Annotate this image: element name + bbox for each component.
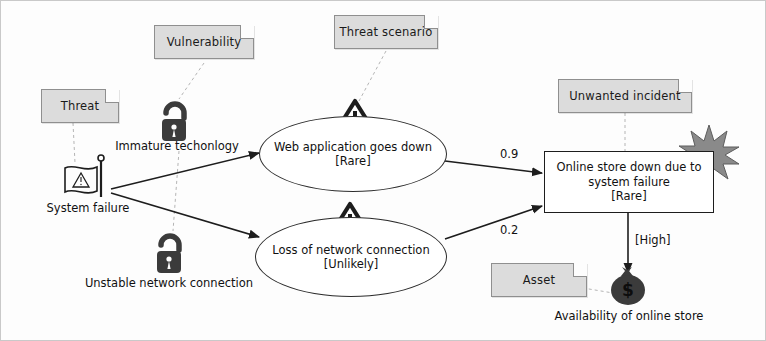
edge-label-incident-to-asset: [High] [635, 233, 670, 247]
open-padlock-icon [157, 236, 181, 273]
threat-scenario-text: Web application goes down [Rare] [274, 140, 432, 169]
leader-vulnerability-note [179, 63, 204, 99]
note-fold-corner [105, 89, 119, 103]
note-threat-scenario-label: Threat scenario [340, 25, 433, 39]
note-asset[interactable]: Asset [491, 263, 587, 297]
edge-label-web-app-to-incident: 0.9 [500, 147, 518, 161]
threat-scenario-likelihood: [Unlikely] [272, 257, 429, 271]
threat-scenario-name: Web application goes down [274, 140, 432, 154]
threat-scenario-name: Loss of network connection [272, 243, 429, 257]
unwanted-incident-likelihood: [Rare] [556, 189, 701, 204]
note-vulnerability-label: Vulnerability [167, 35, 242, 49]
leader-vuln2-note [173, 151, 179, 231]
note-threat-scenario[interactable]: Threat scenario [334, 15, 438, 49]
coras-diagram-canvas: $ Threat Vulnerability Threat scenario U… [0, 0, 766, 341]
money-bag-icon: $ [611, 267, 645, 305]
note-fold-corner [678, 79, 692, 93]
vulnerability-label-immature-technology: Immature techonlogy [109, 139, 245, 153]
note-vulnerability[interactable]: Vulnerability [154, 25, 254, 59]
vulnerability-label-unstable-network-connection: Unstable network connection [79, 276, 259, 290]
threat-scenario-web-app-goes-down[interactable]: Web application goes down [Rare] [259, 116, 447, 192]
threat-scenario-likelihood: [Rare] [274, 154, 432, 168]
note-fold-corner [240, 25, 254, 39]
note-unwanted-incident-label: Unwanted incident [569, 89, 681, 103]
edge-threat-to-loss-network [111, 193, 259, 237]
note-threat[interactable]: Threat [41, 89, 119, 123]
unwanted-incident-name-line1: Online store down due to [556, 160, 701, 175]
edge-network-to-incident [445, 206, 542, 239]
unwanted-incident-text: Online store down due to system failure … [556, 160, 701, 205]
open-padlock-icon [162, 104, 186, 141]
unwanted-incident-name-line2: system failure [556, 175, 701, 190]
threat-scenario-text: Loss of network connection [Unlikely] [272, 243, 429, 272]
note-fold-corner [424, 15, 438, 29]
asset-label-availability-of-online-store: Availability of online store [546, 309, 712, 323]
edge-web-app-to-incident [445, 161, 542, 173]
unwanted-incident-online-store-down[interactable]: Online store down due to system failure … [544, 151, 714, 213]
leader-threat-note [73, 123, 75, 163]
note-fold-corner [573, 263, 587, 277]
threat-label-system-failure: System failure [41, 201, 135, 215]
threat-scenario-loss-of-network-connection[interactable]: Loss of network connection [Unlikely] [255, 217, 447, 297]
flag-warning-icon [65, 155, 104, 197]
svg-text:$: $ [622, 280, 634, 300]
leader-threat-scenario-note [359, 51, 386, 101]
note-threat-label: Threat [61, 99, 100, 113]
edge-label-network-to-incident: 0.2 [500, 223, 518, 237]
edge-threat-to-web-app [111, 153, 259, 189]
note-unwanted-incident[interactable]: Unwanted incident [558, 79, 692, 113]
note-asset-label: Asset [523, 273, 555, 287]
